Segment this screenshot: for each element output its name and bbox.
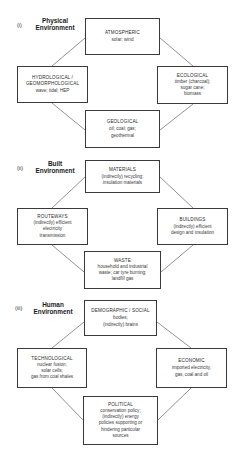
box-body: bodies; (indirectly) brains (103, 315, 138, 327)
box-title: BUILDINGS (179, 217, 205, 223)
box-body-line: oil; coal; gas; (109, 126, 136, 132)
box-demographic-social: DEMOGRAPHIC / SOCIAL bodies; (indirectly… (84, 300, 157, 336)
box-title: DEMOGRAPHIC / SOCIAL (91, 308, 149, 314)
box-geological: GEOLOGICAL oil; coal; gas; geothermal (85, 110, 160, 148)
box-body-line: transmission (33, 233, 71, 239)
box-buildings: BUILDINGS (indirectly) efficient design … (157, 208, 228, 245)
box-body-line: biomass (175, 91, 211, 97)
section-title-line1: Physical (30, 17, 80, 24)
box-body-line: design and insulation (171, 230, 214, 236)
box-technological: TECHNOLOGICAL nuclear fusion; solar cell… (17, 348, 87, 388)
box-body-line: sources (99, 433, 142, 439)
box-body-line: landfill gas (98, 276, 148, 282)
section-title-line2: Environment (28, 308, 78, 315)
connector-routeways-waste (52, 245, 84, 272)
box-title: ECONOMIC (178, 358, 204, 364)
connector-demographic-economic (157, 322, 191, 348)
section-title-line1: Human (28, 301, 78, 308)
section-title: Built Environment (30, 160, 80, 174)
connector-demographic-technological (52, 322, 84, 348)
section-title-line2: Environment (30, 24, 80, 31)
section-title-line1: Built (30, 160, 80, 167)
box-economic: ECONOMIC imported electricity, gas, coal… (156, 348, 227, 388)
box-materials: MATERIALS (indirectly) recycling; insula… (85, 160, 160, 193)
section-title: Physical Environment (30, 17, 80, 31)
box-body-line: imported electricity, (172, 365, 211, 371)
box-title-line2: GEOMORPHOLOGICAL (26, 81, 79, 87)
section-number: (i) (17, 22, 22, 28)
box-title: ATMOSPHERIC (105, 30, 140, 36)
box-body: wave; tidal; HEP (36, 88, 70, 94)
box-body-line: (indirectly) brains (103, 322, 138, 328)
box-routeways: ROUTEWAYS (indirectly) efficient electri… (17, 208, 88, 245)
box-body: conservation policy; (indirectly) energy… (99, 408, 142, 439)
section-number: (iii) (15, 305, 22, 311)
box-body-line: nuclear fusion; (31, 362, 73, 368)
box-body: imported electricity, gas, coal and oil (172, 365, 211, 377)
connector-materials-routeways (52, 177, 85, 208)
box-body: oil; coal; gas; geothermal (109, 126, 136, 138)
box-body-line: policies supporting or (99, 420, 142, 426)
box-body-line: gas, coal and oil (172, 372, 211, 378)
box-body: (indirectly) efficient design and insula… (171, 224, 214, 236)
box-body-line: geothermal (109, 133, 136, 139)
box-title: MATERIALS (109, 167, 136, 173)
box-ecological: ECOLOGICAL timber (charcoal); sugar cane… (157, 66, 228, 104)
box-title: GEOLOGICAL (107, 119, 139, 125)
box-waste: WASTE household and industrial waste; ca… (84, 251, 161, 289)
box-body-line: hindering particular (99, 427, 142, 433)
connector-technological-political (52, 388, 83, 420)
box-body-line: timber (charcoal); (175, 79, 211, 85)
section-title-line2: Environment (30, 167, 80, 174)
box-body: timber (charcoal); sugar cane; biomass (175, 79, 211, 98)
box-body: solar; wind (112, 37, 134, 43)
box-hydrological: HYDROLOGICAL / GEOMORPHOLOGICAL wave; ti… (17, 66, 88, 103)
box-body: (indirectly) efficient electricity trans… (33, 220, 71, 239)
box-body-line: insulation materials (102, 180, 144, 186)
box-body: household and industrial waste; car tyre… (98, 264, 148, 283)
connector-atmospheric-ecological (160, 38, 193, 66)
connector-atmospheric-hydrological (52, 38, 85, 66)
section-number: (ii) (17, 165, 23, 171)
box-body-line: household and industrial (98, 264, 148, 270)
connector-ecological-geological (160, 104, 193, 130)
connector-materials-buildings (160, 177, 193, 208)
connector-buildings-waste (161, 245, 193, 272)
connector-economic-political (158, 388, 191, 420)
box-body: (indirectly) recycling; insulation mater… (102, 174, 144, 186)
connector-hydrological-geological (52, 103, 85, 130)
box-atmospheric: ATMOSPHERIC solar; wind (85, 18, 160, 55)
box-body: nuclear fusion; solar cells; gas from co… (31, 362, 73, 381)
box-body-line: gas from coal shales (31, 374, 73, 380)
energy-sources-diagram: (i) Physical Environment ATMOSPHERIC sol… (0, 0, 243, 460)
section-title: Human Environment (28, 301, 78, 315)
box-political: POLITICAL conservation policy; (indirect… (83, 396, 158, 445)
